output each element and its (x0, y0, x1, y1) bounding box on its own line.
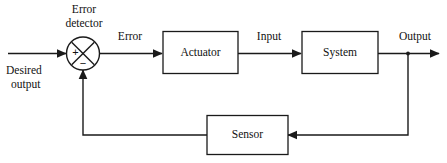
error-detector-caption-line2: detector (65, 17, 102, 29)
signal-label-output: Output (399, 30, 432, 43)
signal-label-error: Error (118, 30, 142, 42)
block-actuator: Actuator (163, 32, 238, 74)
signal-label-desired-output-line1: Desired (6, 64, 42, 76)
diagram-canvas: Actuator System Sensor + − Error detecto… (0, 0, 447, 163)
block-sensor-label: Sensor (232, 128, 263, 140)
block-sensor: Sensor (207, 116, 288, 155)
signal-label-desired-output-line2: output (11, 78, 41, 91)
error-detector-minus-sign: − (80, 57, 86, 69)
control-system-diagram: Actuator System Sensor + − Error detecto… (0, 0, 447, 163)
wire-sensor-to-error-detector (83, 70, 207, 135)
error-detector-plus-sign: + (72, 46, 78, 58)
block-system: System (302, 32, 378, 74)
block-actuator-label: Actuator (180, 46, 220, 58)
branch-point-dot (406, 52, 410, 56)
block-system-label: System (323, 46, 357, 59)
error-detector-caption-line1: Error (72, 3, 96, 15)
signal-label-input: Input (257, 30, 282, 43)
error-detector-junction: + − (67, 37, 100, 70)
